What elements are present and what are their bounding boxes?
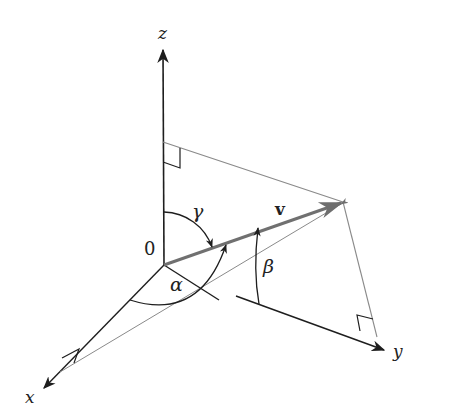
z-axis xyxy=(163,50,164,265)
beta-arc xyxy=(256,228,259,304)
vector-v xyxy=(164,203,341,265)
x-axis-label: x xyxy=(25,387,35,407)
beta-label: β xyxy=(262,255,274,277)
diagram-canvas: z y x 0 v γ α β xyxy=(0,0,458,410)
gamma-label: γ xyxy=(192,200,204,222)
right-angle-mark-z xyxy=(163,148,180,168)
y-axis-label: y xyxy=(392,341,403,361)
gamma-arc xyxy=(164,212,212,247)
projection-to-y xyxy=(343,202,377,337)
vector-v-label: v xyxy=(274,199,286,219)
projection-to-z xyxy=(163,142,343,202)
right-angle-mark-y xyxy=(357,315,373,331)
y-axis xyxy=(236,296,384,350)
x-axis xyxy=(44,265,164,388)
origin-label: 0 xyxy=(144,238,155,259)
z-axis-label: z xyxy=(157,23,168,43)
alpha-label: α xyxy=(170,273,183,295)
direction-angles-diagram: z y x 0 v γ α β xyxy=(0,0,458,410)
